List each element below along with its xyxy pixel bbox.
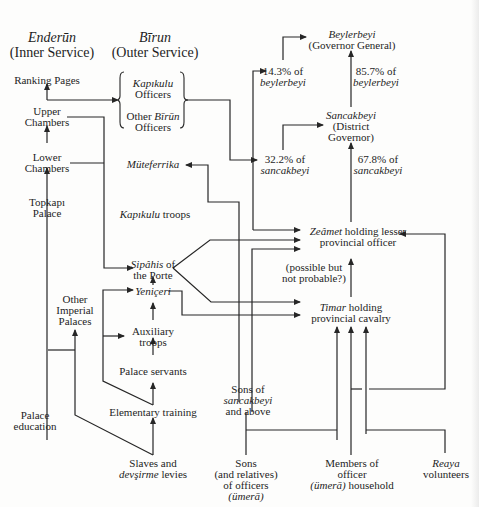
pct-14-beylerbeyi: 14.3% of beylerbeyi [260, 66, 306, 88]
ottoman-career-paths-diagram: Enderūn (Inner Service) Bīrun (Outer Ser… [0, 0, 479, 507]
pct-32-sancakbeyi: 32.2% of sancakbeyi [261, 154, 310, 176]
upper-chambers-node: Upper Chambers [25, 106, 70, 128]
palace-education-label: Palace education [14, 410, 57, 432]
pct-67-sancakbeyi: 67.8% of sancakbeyi [354, 154, 403, 176]
kapikulu-troops-label: Kapıkulu troops [120, 209, 191, 220]
sipahis-node: Sipâhis of the Porte [131, 259, 175, 281]
palace-servants-node: Palace servants [119, 366, 187, 377]
yeniceri-node: Yeniçeri [135, 286, 171, 297]
beylerbeyi-node: Beylerbeyi (Governor General) [308, 29, 395, 51]
enderun-header: Enderūn (Inner Service) [10, 30, 94, 60]
timar-node: Timar holding provincial cavalry [311, 302, 391, 324]
zeamet-node: Zeâmet holding lesser provincial officer [310, 226, 407, 248]
auxiliary-troops-node: Auxiliary troops [132, 326, 174, 348]
sancakbeyi-node: Sancakbeyi (District Governor) [326, 110, 376, 143]
pct-85-beylerbeyi: 85.7% of beylerbeyi [353, 66, 399, 88]
reaya-volunteers-node: Reaya volunteers [423, 458, 469, 480]
slaves-devsirme-node: Slaves and devşirme levies [119, 458, 187, 480]
possible-not-probable-note: (possible but not probable?) [282, 262, 346, 284]
sons-of-sancakbeyi-node: Sons of sancakbeyi and above [224, 384, 273, 417]
lower-chambers-node: Lower Chambers [25, 152, 70, 174]
birun-header: Bīrun (Outer Service) [112, 30, 199, 60]
muteferrika-node: Müteferrika [127, 159, 180, 170]
elementary-training-node: Elementary training [109, 407, 197, 418]
topkapi-palace-node: Topkapı Palace [29, 197, 65, 219]
sons-of-officers-node: Sons (and relatives) of officers (ümerā) [214, 458, 277, 502]
ranking-pages-node: Ranking Pages [14, 75, 80, 86]
other-imperial-palaces-node: Other Imperial Palaces [56, 294, 93, 327]
page-edge-shadow [471, 0, 479, 507]
officers-brace [118, 70, 188, 130]
officer-household-node: Members of officer (ümerā) household [310, 458, 393, 491]
